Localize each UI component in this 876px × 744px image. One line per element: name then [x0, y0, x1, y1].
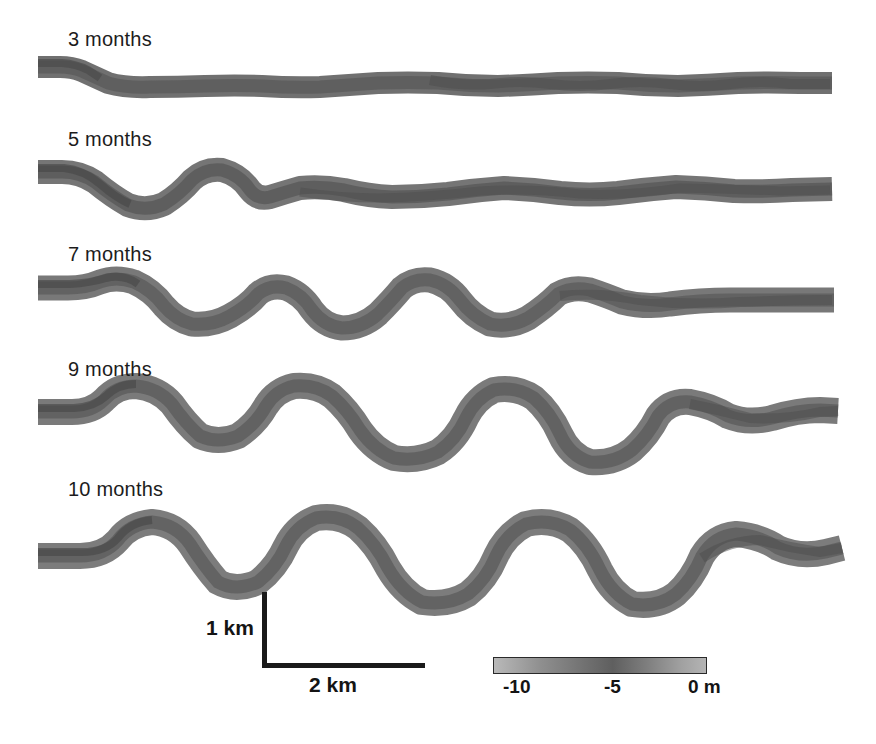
colorbar-tick-minus-5: -5 — [604, 676, 621, 698]
scalebar-vertical-label: 1 km — [206, 616, 254, 640]
scalebar-horizontal-rule — [262, 663, 425, 668]
time-label-9-months: 9 months — [68, 358, 152, 381]
channel-band-3-months — [38, 63, 832, 87]
time-label-7-months: 7 months — [68, 243, 152, 266]
channel-band-7-months — [38, 277, 834, 328]
time-label-5-months: 5 months — [68, 128, 152, 151]
scalebar-vertical-rule — [262, 592, 267, 668]
colorbar-tick-zero-meters: 0 m — [688, 676, 721, 698]
colorbar-tick-minus-10: -10 — [503, 676, 530, 698]
figure-root: 3 months 5 months 7 months 9 months 10 m… — [0, 0, 876, 744]
depth-colorbar — [493, 657, 707, 674]
scalebar-horizontal-label: 2 km — [309, 673, 357, 697]
channel-band-5-months — [38, 168, 832, 208]
channel-band-9-months — [38, 384, 838, 462]
time-label-3-months: 3 months — [68, 28, 152, 51]
channel-band-10-months — [38, 517, 842, 605]
time-label-10-months: 10 months — [68, 478, 163, 501]
